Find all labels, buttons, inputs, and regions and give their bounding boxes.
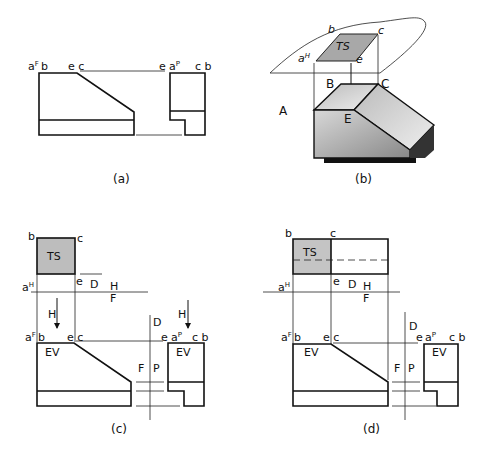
label-c: c — [378, 24, 384, 37]
label-ev: EV — [304, 346, 319, 359]
label-aF: aF — [281, 331, 292, 344]
label-f-fold: F — [363, 292, 369, 305]
label-b: b — [285, 227, 292, 240]
label-ev: EV — [45, 346, 60, 359]
label-ev2: EV — [176, 346, 191, 359]
panel-b: TS b c aH e A B C E (b) — [270, 18, 434, 186]
label-ec-front: e c — [323, 331, 339, 344]
label-e: e — [159, 60, 166, 73]
label-d2: D — [153, 316, 161, 329]
caption-c: (c) — [111, 422, 127, 436]
panel-d: TS b c aH e H F D aF b e c EV D F P e aP… — [263, 227, 466, 436]
label-f: F — [394, 362, 400, 375]
label-b: b — [328, 23, 335, 36]
label-ts: TS — [302, 246, 317, 259]
label-aH: aH — [298, 52, 311, 65]
label-E: E — [344, 112, 352, 126]
label-ev2: EV — [432, 346, 447, 359]
caption-d: (d) — [363, 422, 380, 436]
label-h-arrow: H — [48, 308, 56, 321]
label-b-front: b — [294, 331, 301, 344]
caption-b: (b) — [355, 172, 372, 186]
caption-a: (a) — [113, 172, 130, 186]
label-d: D — [90, 278, 98, 291]
label-cb-profile: c b — [192, 331, 209, 344]
orthographic-projection-figure: aF b e c e aP c b (a) TS b c aH e A B C … — [0, 0, 490, 464]
label-c: c — [330, 227, 336, 240]
label-c: c — [77, 232, 83, 245]
label-b: b — [28, 230, 35, 243]
label-e-profile: e — [416, 331, 423, 344]
label-ec: e c — [68, 60, 84, 73]
label-aP: aP — [169, 60, 180, 73]
label-e: e — [333, 275, 340, 288]
label-aF: aF — [25, 331, 36, 344]
label-ts: TS — [46, 250, 61, 263]
label-aP: aP — [425, 331, 436, 344]
label-p: P — [153, 362, 160, 375]
panel-c: TS b c aH e H F D H aF b e c EV D F P H … — [22, 230, 209, 436]
label-b: b — [41, 60, 48, 73]
label-e: e — [356, 53, 363, 66]
label-ts: TS — [336, 40, 350, 53]
label-f-fold: F — [110, 292, 116, 305]
label-B: B — [326, 77, 334, 91]
label-e: e — [76, 275, 83, 288]
label-ec-front: e c — [67, 331, 83, 344]
label-cb-profile: c b — [449, 331, 466, 344]
label-cb: c b — [195, 60, 212, 73]
label-aP: aP — [171, 331, 182, 344]
label-e-profile: e — [161, 331, 168, 344]
label-b-front: b — [38, 331, 45, 344]
label-h-arrow2: H — [178, 308, 186, 321]
label-aF: aF — [28, 60, 39, 73]
label-p: P — [408, 362, 415, 375]
label-A: A — [279, 104, 288, 118]
label-d: D — [348, 278, 356, 291]
label-C: C — [381, 77, 389, 91]
label-f: F — [138, 362, 144, 375]
panel-a: aF b e c e aP c b (a) — [28, 60, 212, 186]
